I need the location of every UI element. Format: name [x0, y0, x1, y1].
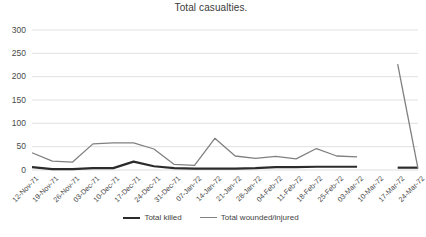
y-axis-tick-label: 300 [0, 26, 26, 34]
legend-item-killed: Total killed [123, 213, 181, 222]
series-line [398, 64, 418, 169]
legend-line-icon [200, 217, 217, 218]
legend-label: Total wounded/injured [221, 213, 299, 222]
chart-legend: Total killed Total wounded/injured [0, 213, 422, 222]
legend-item-wounded: Total wounded/injured [200, 213, 299, 222]
series-line [32, 138, 357, 165]
y-axis-tick-label: 150 [0, 96, 26, 104]
y-axis-tick-label: 250 [0, 49, 26, 57]
legend-label: Total killed [144, 213, 181, 222]
y-axis-tick-label: 200 [0, 72, 26, 80]
y-axis-tick-label: 50 [0, 142, 26, 150]
series-lines [32, 64, 418, 169]
gridlines [32, 30, 418, 170]
y-axis-tick-label: 100 [0, 119, 26, 127]
y-axis-tick-label: 0 [0, 166, 26, 174]
legend-line-icon [123, 217, 140, 219]
